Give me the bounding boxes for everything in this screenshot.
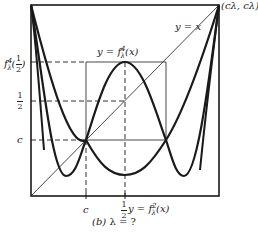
y-tick-c: c	[17, 135, 23, 145]
identity-line-label: y = x	[175, 22, 201, 32]
y-tick-f4-half: f4λ(12)	[4, 55, 25, 74]
f4-curve-label: y = f4λ(x)	[97, 46, 138, 60]
y-tick-f4-sub: λ	[7, 64, 11, 72]
caption-equation: λ = ?	[109, 216, 135, 227]
f4-right-branch	[200, 5, 219, 170]
x-tick-c-label: c	[83, 205, 89, 215]
dashed-guides	[31, 62, 125, 196]
figure-caption: (b) λ = ?	[92, 216, 136, 227]
f4-suffix: (x)	[125, 46, 138, 57]
diagram-canvas	[0, 0, 258, 234]
f2-suffix: (x)	[156, 203, 169, 214]
y-tick-f4-frac: 12	[16, 55, 22, 74]
caption-part: (b)	[92, 216, 106, 227]
y-tick-half: 12	[17, 92, 23, 111]
corner-point-label: (cλ, cλ)	[221, 1, 258, 11]
f2-prefix: y = f	[128, 203, 152, 214]
y-tick-half-den: 2	[17, 103, 22, 111]
f4-prefix: y = f	[97, 46, 121, 57]
x-tick-half-num: 1	[121, 201, 126, 209]
y-tick-half-num: 1	[17, 92, 22, 100]
